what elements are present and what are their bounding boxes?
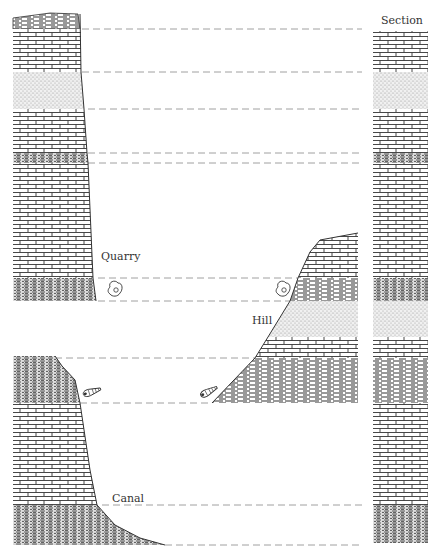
section-column xyxy=(373,31,428,543)
hill-label: Hill xyxy=(252,314,272,327)
gastropod-fossil-icon xyxy=(82,386,101,398)
quarry-outcrop xyxy=(13,13,96,301)
geological-diagram xyxy=(0,0,433,548)
canal-outcrop xyxy=(13,356,165,545)
quarry-label: Quarry xyxy=(101,250,140,263)
hill-outcrop xyxy=(212,233,358,403)
ammonite-fossil-icon xyxy=(108,281,122,296)
section-label: Section xyxy=(381,14,423,27)
ammonite-fossil-icon xyxy=(276,281,290,296)
gastropod-fossil-icon xyxy=(199,384,218,398)
canal-label: Canal xyxy=(112,492,144,505)
